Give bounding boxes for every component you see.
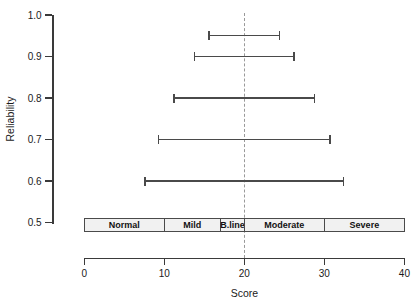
x-axis-tick-label: 0 [71,268,97,279]
severity-band-label: Severe [324,218,404,232]
y-axis-tick [45,222,53,223]
error-bar-line [145,180,343,181]
y-axis-tick-label: 0.9 [23,51,42,62]
error-bar-line [209,35,279,36]
error-bar-cap-left [194,52,195,61]
reliability-vs-score-chart: Reliability Score 1.00.90.80.70.60.50102… [0,0,418,306]
y-axis-tick [45,97,53,98]
severity-band-label: B.line [220,218,244,232]
error-bar-cap-right [329,135,330,144]
error-bar-cap-right [293,52,294,61]
y-axis-tick-label: 0.5 [23,217,42,228]
severity-band-label: Moderate [244,218,324,232]
x-axis-tick-label: 30 [311,268,337,279]
x-axis-tick [404,258,405,266]
y-axis-tick-label: 1.0 [23,10,42,21]
error-bar-cap-left [144,177,145,186]
y-axis-tick-label: 0.7 [23,134,42,145]
x-axis-tick [84,258,85,266]
plot-area: 1.00.90.80.70.60.5010203040NormalMildB.l… [0,0,418,306]
y-axis-tick [45,56,53,57]
x-axis-tick-label: 10 [151,268,177,279]
x-axis-tick-label: 40 [391,268,417,279]
severity-band-label: Normal [84,218,164,232]
error-bar-cap-left [173,94,174,103]
x-axis-tick [324,258,325,266]
severity-band-label: Mild [164,218,220,232]
y-axis-line [52,15,53,224]
y-axis-tick [45,180,53,181]
x-axis-tick [164,258,165,266]
error-bar-line [174,97,315,98]
y-axis-tick [45,14,53,15]
error-bar-cap-right [343,177,344,186]
error-bar-cap-left [208,31,209,40]
error-bar-cap-right [279,31,280,40]
error-bar-cap-left [158,135,159,144]
error-bar-line [195,56,294,57]
x-axis-tick [244,258,245,266]
error-bar-line [159,139,330,140]
y-axis-tick-label: 0.6 [23,176,42,187]
error-bar-cap-right [314,94,315,103]
x-axis-tick-label: 20 [231,268,257,279]
y-axis-tick-label: 0.8 [23,93,42,104]
y-axis-tick [45,139,53,140]
